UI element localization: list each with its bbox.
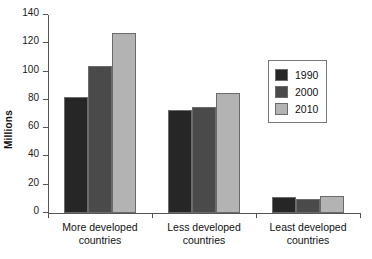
y-tick-label: 140: [22, 7, 39, 18]
legend-swatch-2000: [275, 86, 288, 98]
bar-chart: Millions 020406080100120140 More develop…: [0, 0, 372, 259]
bar-1990-group3: [272, 197, 296, 213]
x-tick: [256, 213, 257, 218]
y-axis-line: [48, 15, 49, 213]
category-label: Less developed countries: [152, 221, 256, 247]
y-tick: 40: [43, 155, 48, 156]
legend-item: 1990: [275, 66, 318, 83]
bar-2000-group2: [192, 107, 216, 213]
x-tick: [152, 213, 153, 218]
x-tick: [360, 213, 361, 218]
y-tick-label: 20: [28, 177, 39, 188]
legend-item: 2000: [275, 83, 318, 100]
y-tick-label: 60: [28, 120, 39, 131]
bar-2010-group1: [112, 33, 136, 213]
legend: 1990 2000 2010: [268, 60, 327, 123]
x-axis-line: [48, 213, 360, 214]
y-tick: 140: [43, 14, 48, 15]
bar-2000-group1: [88, 66, 112, 213]
y-tick: 120: [43, 42, 48, 43]
bar-1990-group1: [64, 97, 88, 213]
y-tick: 20: [43, 184, 48, 185]
category-label: Least developed countries: [256, 221, 360, 247]
category-label: More developed countries: [48, 221, 152, 247]
bar-2000-group3: [296, 199, 320, 213]
y-tick-label: 0: [33, 205, 39, 216]
bar-2010-group3: [320, 196, 344, 213]
y-axis-title: Millions: [0, 0, 16, 259]
y-tick: 100: [43, 71, 48, 72]
legend-label-1990: 1990: [295, 69, 318, 81]
y-tick: 60: [43, 127, 48, 128]
legend-label-2010: 2010: [295, 103, 318, 115]
x-tick: [48, 213, 49, 218]
legend-label-2000: 2000: [295, 86, 318, 98]
legend-swatch-1990: [275, 69, 288, 81]
y-tick-label: 40: [28, 148, 39, 159]
y-tick-label: 100: [22, 64, 39, 75]
y-tick: 80: [43, 99, 48, 100]
y-tick-label: 80: [28, 92, 39, 103]
legend-item: 2010: [275, 100, 318, 117]
bar-2010-group2: [216, 93, 240, 213]
y-tick-label: 120: [22, 35, 39, 46]
legend-swatch-2010: [275, 103, 288, 115]
bar-1990-group2: [168, 110, 192, 213]
